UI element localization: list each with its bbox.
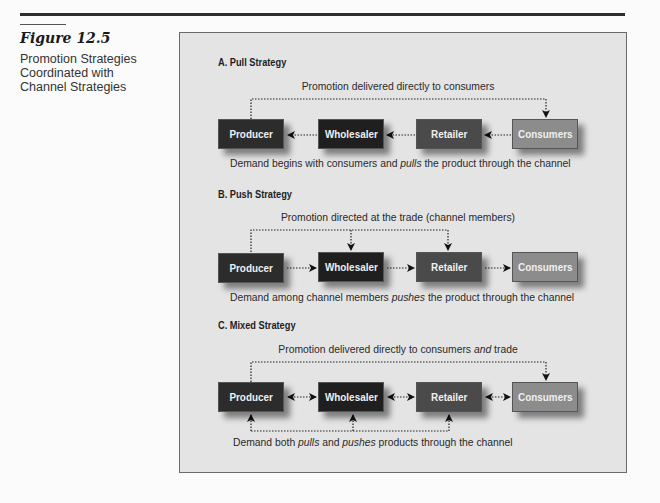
mixed-wholesaler-box: Wholesaler xyxy=(318,382,384,412)
mixed-producer-box: Producer xyxy=(218,382,284,412)
push-strategy-title: B. Push Strategy xyxy=(218,188,292,200)
mixed-promotion-label: Promotion delivered directly to consumer… xyxy=(278,343,517,355)
pull-retailer-box: Retailer xyxy=(416,119,482,149)
mixed-demand-caption: Demand both pulls and pushes products th… xyxy=(233,436,513,448)
push-retailer-box: Retailer xyxy=(416,252,482,282)
push-wholesaler-box: Wholesaler xyxy=(318,252,384,282)
pull-producer-box: Producer xyxy=(218,119,284,149)
pull-strategy-title: A. Pull Strategy xyxy=(218,56,286,68)
mixed-strategy-title: C. Mixed Strategy xyxy=(218,319,296,331)
pull-consumers-box: Consumers xyxy=(512,119,578,149)
pull-wholesaler-box: Wholesaler xyxy=(318,119,384,149)
push-demand-caption: Demand among channel members pushes the … xyxy=(230,291,574,303)
push-promotion-label: Promotion directed at the trade (channel… xyxy=(281,211,515,223)
push-producer-box: Producer xyxy=(218,253,284,283)
push-consumers-box: Consumers xyxy=(512,252,578,282)
mixed-retailer-box: Retailer xyxy=(416,382,482,412)
pull-demand-caption: Demand begins with consumers and pulls t… xyxy=(230,157,571,169)
pull-promotion-label: Promotion delivered directly to consumer… xyxy=(302,80,495,92)
mixed-consumers-box: Consumers xyxy=(512,382,578,412)
